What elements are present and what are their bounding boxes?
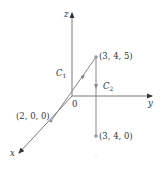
x-axis xyxy=(19,96,72,153)
point-label-2-0-0: (2, 0, 0) xyxy=(16,111,50,121)
z-axis-label: z xyxy=(63,9,69,19)
y-axis-label: y xyxy=(147,98,153,108)
point-3-4-0 xyxy=(94,134,98,138)
curve-label-c2-sub: 2 xyxy=(110,85,114,92)
x-axis-label: x xyxy=(10,148,15,158)
point-label-3-4-5: (3, 4, 5) xyxy=(99,51,133,61)
curve-label-c2: C2 xyxy=(103,81,114,92)
point-2-0-0 xyxy=(49,119,52,122)
curve-label-c1: C1 xyxy=(56,68,66,79)
curve-c2-arrow-icon xyxy=(94,84,98,89)
curve-label-c1-sub: 1 xyxy=(63,72,67,79)
point-label-3-4-0: (3, 4, 0) xyxy=(99,131,133,141)
3d-path-diagram: z y x 0 (2, 0, 0) (3, 4, 5) (3, 4, 0) C1… xyxy=(0,0,162,171)
origin-label: 0 xyxy=(72,99,77,109)
curve-c1-path xyxy=(51,57,96,121)
stray-dot xyxy=(95,154,96,155)
point-3-4-5 xyxy=(94,55,98,59)
